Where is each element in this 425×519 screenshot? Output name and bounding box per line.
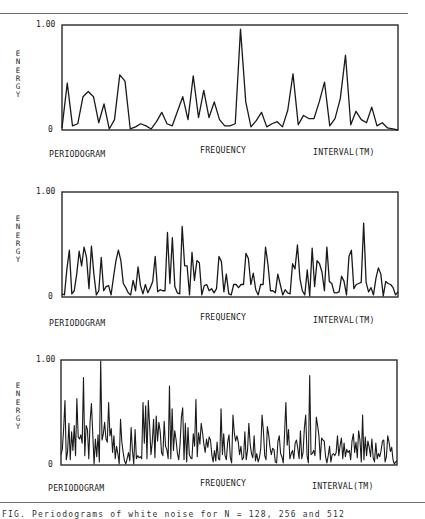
chart-2: [0, 167, 425, 327]
y-tick-max: 1.00: [36, 20, 55, 29]
y-tick-zero: 0: [48, 460, 53, 469]
y-axis-label: E N E R G Y: [13, 382, 23, 432]
bottom-rule: [0, 502, 425, 503]
energy-line: [62, 223, 398, 296]
periodogram-panel-2: E N E R G Y 1.00 0 PERIODOGRAM FREQUENCY…: [0, 167, 425, 327]
chart-1: [0, 0, 425, 160]
periodogram-panel-1: E N E R G Y 1.00 0 PERIODOGRAM FREQUENCY…: [0, 0, 425, 160]
periodogram-label: PERIODOGRAM: [49, 318, 105, 328]
frequency-label: FREQUENCY: [200, 145, 246, 155]
interval-label: INTERVAL(TM): [312, 481, 374, 491]
energy-line: [62, 29, 398, 130]
frequency-label: FREQUENCY: [200, 478, 246, 488]
frequency-label: FREQUENCY: [200, 312, 246, 322]
periodogram-label: PERIODOGRAM: [49, 149, 105, 159]
chart-3: [0, 335, 425, 495]
energy-line: [61, 361, 397, 464]
y-tick-max: 1.00: [36, 355, 55, 364]
periodogram-panel-3: E N E R G Y 1.00 0 PERIODOGRAM FREQUENCY…: [0, 335, 425, 495]
y-axis-label: E N E R G Y: [13, 50, 23, 100]
interval-label: INTERVAL(TM): [313, 147, 375, 157]
y-tick-zero: 0: [48, 125, 53, 134]
figure-caption: FIG. Periodograms of white noise for N =…: [2, 510, 345, 519]
y-tick-zero: 0: [48, 292, 53, 301]
periodogram-label: PERIODOGRAM: [48, 483, 104, 493]
y-axis-label: E N E R G Y: [13, 215, 23, 265]
interval-label: INTERVAL(TM): [313, 315, 375, 325]
y-tick-max: 1.00: [36, 187, 55, 196]
